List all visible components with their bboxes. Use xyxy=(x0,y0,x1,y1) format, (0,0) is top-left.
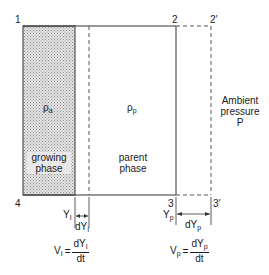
Vp-equals: = xyxy=(183,246,189,257)
corner-label-4: 4 xyxy=(15,198,21,209)
corner-label-2-prime: 2′ xyxy=(210,14,217,25)
Vp-equation: Vp = dYp dt xyxy=(170,238,209,264)
parent-phase-label: parent phase xyxy=(108,152,158,174)
Vp-numerator: dYp xyxy=(190,238,208,253)
VI-lhs: VI xyxy=(54,245,63,257)
ambient-line2: pressure xyxy=(213,106,267,117)
ambient-line3: P xyxy=(213,117,267,128)
Vp-lhs: Vp xyxy=(170,245,181,257)
corner-label-2: 2 xyxy=(172,14,178,25)
parent-phase-line1: parent xyxy=(108,152,158,163)
ambient-pressure-label: Ambient pressure P xyxy=(213,95,267,128)
parent-density-label: ρp xyxy=(127,102,137,116)
Vp-denominator: dt xyxy=(195,253,203,264)
VI-equation: VI = dYI dt xyxy=(54,238,89,264)
dYp-label: dYp xyxy=(185,219,201,233)
ambient-line1: Ambient xyxy=(213,95,267,106)
arrowhead xyxy=(205,212,210,216)
arrowhead xyxy=(84,214,88,218)
phase-diagram-canvas xyxy=(0,0,269,275)
growing-phase-label: growing phase xyxy=(27,152,71,174)
Yp-label: Yp xyxy=(163,209,174,223)
growing-phase-line2: phase xyxy=(27,163,71,174)
VI-fraction: dYI dt xyxy=(72,238,88,264)
VI-numerator: dYI xyxy=(72,238,88,253)
corner-label-3-prime: 3′ xyxy=(213,198,220,209)
growing-phase-line1: growing xyxy=(27,152,71,163)
parent-phase-line2: phase xyxy=(108,163,158,174)
VI-denominator: dt xyxy=(76,253,84,264)
Vp-fraction: dYp dt xyxy=(190,238,208,264)
arrowhead xyxy=(177,212,182,216)
VI-equals: = xyxy=(65,246,71,257)
dYI-label: dYI xyxy=(75,221,89,235)
growing-density-label: ρa xyxy=(43,102,53,116)
corner-label-1: 1 xyxy=(15,14,21,25)
corner-label-3: 3 xyxy=(168,198,174,209)
YI-label: YI xyxy=(63,209,72,223)
arrowhead xyxy=(76,214,80,218)
